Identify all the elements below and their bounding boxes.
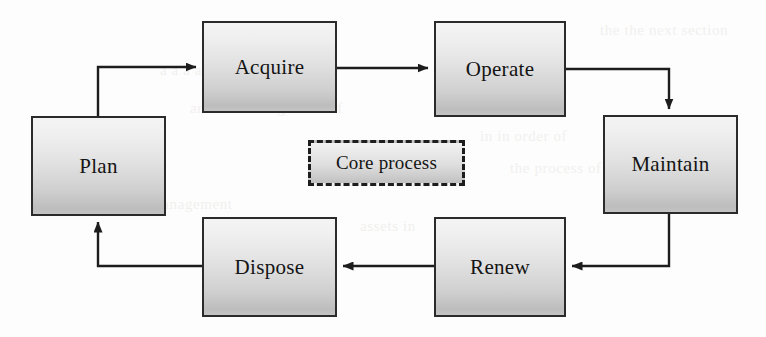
- node-acquire[interactable]: Acquire: [202, 21, 337, 113]
- node-dispose-label: Dispose: [235, 255, 305, 280]
- edge-maintain-to-renew: [572, 214, 669, 266]
- node-operate[interactable]: Operate: [434, 21, 566, 117]
- node-plan-label: Plan: [79, 154, 118, 179]
- legend-core-process-label: Core process: [336, 152, 437, 174]
- node-acquire-label: Acquire: [235, 55, 305, 80]
- edge-dispose-to-plan: [98, 222, 202, 266]
- edge-operate-to-maintain: [566, 69, 669, 109]
- node-operate-label: Operate: [466, 57, 535, 82]
- legend-core-process: Core process: [308, 140, 465, 186]
- node-plan[interactable]: Plan: [31, 116, 166, 216]
- node-renew-label: Renew: [470, 255, 530, 280]
- node-maintain[interactable]: Maintain: [603, 115, 738, 214]
- node-renew[interactable]: Renew: [434, 217, 566, 317]
- node-dispose[interactable]: Dispose: [202, 217, 337, 317]
- node-maintain-label: Maintain: [631, 152, 709, 177]
- edge-plan-to-acquire: [98, 67, 196, 116]
- diagram-canvas: the the next section a a a a a a a a a a…: [0, 0, 766, 337]
